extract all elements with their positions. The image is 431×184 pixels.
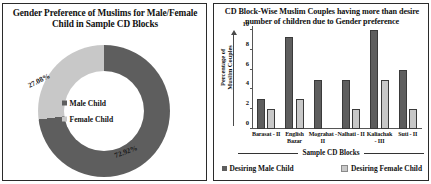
x-axis-title-text: Sample CD Blocks (302, 149, 359, 157)
bar-legend: Desiring Male Child Desiring Female Chil… (222, 164, 422, 173)
y-axis-title-line1: Percentage of (219, 35, 226, 99)
bar-male (342, 80, 350, 130)
pie-legend: Male Child Female Child (62, 92, 146, 131)
legend-swatch-desiring-female-icon (341, 165, 348, 172)
pie-legend-label-male: Male Child (70, 99, 107, 108)
y-axis-tick-label: 6 (246, 59, 249, 66)
x-axis-label: Mograhat - II (309, 131, 337, 145)
x-axis-label: Nalhati - II (337, 131, 365, 145)
pie-legend-item-female: Female Child (62, 115, 146, 124)
bar-legend-label-male: Desiring Male Child (230, 164, 294, 173)
pie-chart-panel: Gender Preference of Muslims for Male/Fe… (2, 3, 207, 181)
bar-female (296, 99, 304, 129)
legend-swatch-male-icon (62, 101, 67, 106)
y-axis-tick-label: 2 (246, 99, 249, 106)
bar-male (314, 80, 322, 130)
bar-plot-area: 0246810 (252, 30, 422, 129)
bar-legend-label-female: Desiring Female Child (351, 164, 422, 173)
bar-chart-panel: CD Block-Wise Muslim Couples having more… (213, 3, 429, 181)
bar-male (285, 37, 293, 129)
bar-male (257, 99, 265, 129)
legend-swatch-desiring-male-icon (222, 166, 227, 171)
bar-chart-title: CD Block-Wise Muslim Couples having more… (219, 7, 425, 27)
y-axis-title-line2: Muslim Couples (226, 35, 233, 99)
bar-group (280, 30, 308, 129)
pie-chart-title: Gender Preference of Muslims for Male/Fe… (7, 8, 203, 31)
bar-group (394, 30, 422, 129)
x-axis-label: Suti - II (394, 131, 422, 145)
doughnut-chart: 27.08% 72.92% Male Child Female Child (19, 44, 189, 178)
bar-male (399, 70, 407, 129)
bar-female (267, 109, 275, 129)
bar-male (370, 30, 378, 129)
bar-groups (252, 30, 422, 129)
bar-legend-item-male: Desiring Male Child (222, 164, 294, 173)
x-axis-rule-left (238, 153, 298, 154)
bar-female (381, 80, 389, 130)
x-axis-label: English Bazar (280, 131, 308, 145)
y-axis-tick-label: 0 (246, 119, 249, 126)
x-axis-title: Sample CD Blocks (238, 149, 424, 157)
y-axis-tick-label: 8 (246, 39, 249, 46)
y-axis-tick-label: 10 (242, 20, 249, 27)
legend-swatch-female-icon (62, 117, 67, 122)
bar-group (337, 30, 365, 129)
y-axis-title-text: Percentage of Muslim Couples (219, 35, 234, 99)
bar-female (409, 109, 417, 129)
bar-legend-item-female: Desiring Female Child (341, 164, 422, 173)
bar-group (365, 30, 393, 129)
bar-group (309, 30, 337, 129)
x-axis-rule-right (364, 153, 424, 154)
figure-container: Gender Preference of Muslims for Male/Fe… (0, 0, 431, 184)
x-axis-label: Kaliachak - III (365, 131, 393, 145)
x-axis-label: Barasat - II (252, 131, 280, 145)
pie-legend-label-female: Female Child (70, 115, 114, 124)
pie-legend-item-male: Male Child (62, 99, 146, 108)
x-axis-labels: Barasat - IIEnglish BazarMograhat - IINa… (252, 131, 422, 145)
bar-female (352, 109, 360, 129)
bar-group (252, 30, 280, 129)
y-axis-tick-label: 4 (246, 79, 249, 86)
y-axis-title: Percentage of Muslim Couples (219, 34, 233, 126)
